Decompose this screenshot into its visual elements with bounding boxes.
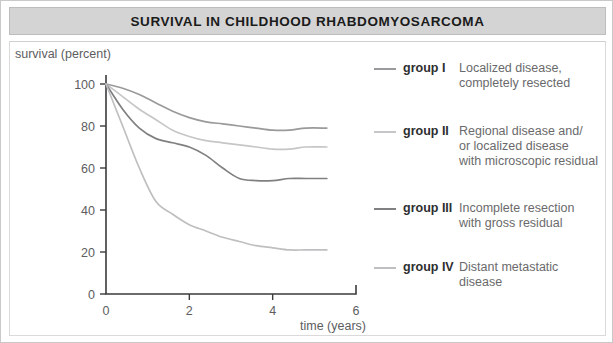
legend-group-label: group II: [403, 124, 459, 138]
legend-swatch-icon: [374, 68, 396, 70]
legend-swatch-icon: [374, 267, 396, 269]
title-banner: SURVIVAL IN CHILDHOOD RHABDOMYOSARCOMA: [9, 7, 606, 35]
legend-group-label: group IV: [403, 260, 459, 274]
legend-description: Localized disease, completely resected: [459, 61, 570, 91]
legend-swatch-icon: [374, 208, 396, 210]
legend-item-group-iii[interactable]: group IIIIncomplete resection with gross…: [374, 201, 574, 231]
x-axis-label: time (years): [300, 319, 366, 333]
legend-description: Regional disease and/ or localized disea…: [459, 124, 598, 169]
legend-item-group-ii[interactable]: group IIRegional disease and/ or localiz…: [374, 124, 598, 169]
legend-group-label: group III: [403, 201, 459, 215]
y-axis-label: survival (percent): [15, 47, 111, 61]
legend-description: Distant metastatic disease: [459, 260, 558, 290]
legend-description: Incomplete resection with gross residual: [459, 201, 574, 231]
page-title: SURVIVAL IN CHILDHOOD RHABDOMYOSARCOMA: [131, 14, 485, 29]
legend-group-label: group I: [403, 61, 459, 75]
figure-container: SURVIVAL IN CHILDHOOD RHABDOMYOSARCOMA s…: [0, 0, 613, 343]
legend-item-group-iv[interactable]: group IVDistant metastatic disease: [374, 260, 558, 290]
legend-swatch-icon: [374, 131, 396, 133]
legend-item-group-i[interactable]: group ILocalized disease, completely res…: [374, 61, 570, 91]
